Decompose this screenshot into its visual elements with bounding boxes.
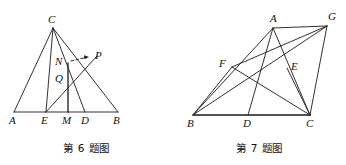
segment-CB — [53, 28, 118, 112]
segment-GF — [232, 26, 327, 67]
label-A: A — [270, 13, 277, 24]
label-D: D — [81, 115, 89, 126]
label-B: B — [113, 115, 120, 126]
figure-7-caption: 第 7 题图 — [173, 140, 346, 155]
label-E: E — [291, 61, 298, 72]
figure-7: A G F E B D C 第 7 题图 — [173, 0, 346, 165]
label-B: B — [187, 118, 194, 129]
segment-BA — [193, 28, 273, 115]
segment-EP — [46, 56, 97, 112]
label-G: G — [328, 11, 336, 22]
label-N: N — [55, 56, 62, 67]
label-E: E — [41, 115, 48, 126]
arrow-N-to-P — [71, 55, 89, 61]
label-D: D — [243, 118, 251, 129]
segment-GB — [193, 26, 327, 115]
figure-6: C N P Q A E M D B 第 6 题图 — [0, 0, 173, 165]
segment-AG — [273, 26, 327, 28]
label-C: C — [306, 118, 313, 129]
label-F: F — [219, 58, 226, 69]
label-Q: Q — [55, 73, 63, 84]
label-M: M — [62, 115, 71, 126]
segment-GC — [310, 26, 327, 115]
label-P: P — [95, 50, 102, 61]
figure-sheet: C N P Q A E M D B 第 6 题图 — [0, 0, 346, 165]
figure-6-caption: 第 6 题图 — [0, 140, 173, 155]
label-A: A — [9, 115, 16, 126]
segment-FB — [193, 67, 232, 115]
label-C: C — [48, 14, 55, 25]
